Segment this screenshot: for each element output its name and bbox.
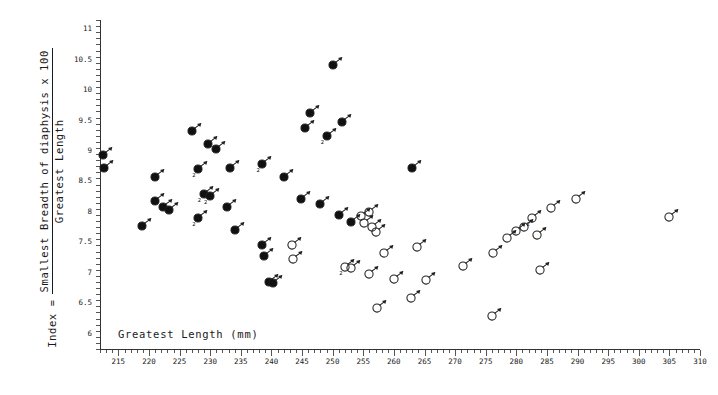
y-axis-minor-tick	[96, 233, 100, 234]
data-point-filled-male	[284, 177, 285, 178]
data-point-open-male	[507, 238, 508, 239]
x-axis-major-tick	[394, 350, 395, 356]
x-axis-tick-label: 270	[442, 358, 468, 366]
filled-circle-female-icon	[148, 164, 168, 184]
x-axis-minor-tick	[510, 350, 511, 353]
data-point-open-female	[377, 308, 378, 309]
x-axis-minor-tick	[229, 350, 230, 353]
open-circle-female-icon	[370, 296, 390, 316]
filled-circle-female-icon	[220, 195, 240, 215]
data-point-filled-female	[264, 256, 265, 257]
y-axis-minor-tick	[96, 197, 100, 198]
x-axis-minor-tick	[247, 350, 248, 353]
open-circle-female-icon	[369, 220, 389, 240]
x-axis-minor-tick	[437, 350, 438, 353]
open-circle-male-icon	[456, 253, 476, 273]
y-axis-minor-tick	[96, 294, 100, 295]
x-axis-minor-tick	[106, 350, 107, 353]
x-axis-minor-tick	[431, 350, 432, 353]
x-axis-minor-tick	[131, 350, 132, 353]
x-axis-minor-tick	[327, 350, 328, 353]
x-axis-minor-tick	[161, 350, 162, 353]
x-axis-minor-tick	[590, 350, 591, 353]
data-point-open-male	[551, 208, 552, 209]
x-axis-minor-tick	[633, 350, 634, 353]
x-axis-minor-tick	[492, 350, 493, 353]
y-axis-minor-tick	[96, 81, 100, 82]
duplicate-count-label: 2	[204, 200, 207, 206]
data-point-open-male	[540, 270, 541, 271]
data-point-filled-female: 2	[198, 218, 199, 219]
x-axis-minor-tick	[125, 350, 126, 353]
x-axis-minor-tick	[320, 350, 321, 353]
open-circle-female-icon	[419, 268, 439, 288]
duplicate-count-label: 2	[257, 169, 260, 175]
x-axis-tick-label: 250	[320, 358, 346, 366]
y-axis-minor-tick	[96, 209, 100, 210]
y-axis-minor-tick	[96, 203, 100, 204]
x-axis-minor-tick	[369, 350, 370, 353]
x-axis-minor-tick	[314, 350, 315, 353]
x-axis-minor-tick	[192, 350, 193, 353]
data-point-filled-female	[104, 168, 105, 169]
x-axis-minor-tick	[222, 350, 223, 353]
y-axis-minor-tick	[96, 252, 100, 253]
data-point-filled-female: 2	[210, 196, 211, 197]
x-axis-minor-tick	[467, 350, 468, 353]
x-axis-minor-tick	[541, 350, 542, 353]
x-axis-minor-tick	[100, 350, 101, 353]
open-circle-female-icon	[286, 246, 306, 266]
data-point-filled-female	[155, 201, 156, 202]
filled-circle-male-icon	[314, 192, 334, 212]
y-axis-minor-tick	[96, 75, 100, 76]
data-point-open-male	[417, 247, 418, 248]
x-axis-minor-tick	[676, 350, 677, 353]
y-axis-minor-tick	[96, 191, 100, 192]
y-axis-minor-tick	[96, 270, 100, 271]
x-axis-minor-tick	[627, 350, 628, 353]
data-point-open-female	[411, 298, 412, 299]
x-axis-major-tick	[363, 350, 364, 356]
x-axis-minor-tick	[259, 350, 260, 353]
data-point-filled-male	[412, 168, 413, 169]
x-axis-tick-label: 215	[105, 358, 131, 366]
open-circle-female-icon	[485, 303, 505, 323]
x-axis-minor-tick	[186, 350, 187, 353]
y-axis-minor-tick	[96, 99, 100, 100]
x-axis-minor-tick	[284, 350, 285, 353]
x-axis-minor-tick	[216, 350, 217, 353]
filled-circle-female-icon	[266, 271, 286, 291]
y-axis-label: Index = Smallest Breadth of diaphysis x …	[32, 33, 72, 363]
x-axis-major-tick	[180, 350, 181, 356]
x-axis-minor-tick	[688, 350, 689, 353]
data-point-filled-female	[227, 207, 228, 208]
x-axis-minor-tick	[235, 350, 236, 353]
x-axis-minor-tick	[443, 350, 444, 353]
data-point-open-female	[369, 274, 370, 275]
x-axis-tick-label: 305	[656, 358, 682, 366]
x-axis-major-tick	[333, 350, 334, 356]
x-axis-major-tick	[118, 350, 119, 356]
y-axis-minor-tick	[96, 51, 100, 52]
x-axis-major-tick	[210, 350, 211, 356]
filled-circle-male-icon	[406, 156, 426, 176]
y-axis-minor-tick	[96, 105, 100, 106]
x-axis-minor-tick	[522, 350, 523, 353]
y-axis-tick-label: 8	[66, 208, 92, 216]
x-axis-minor-tick	[296, 350, 297, 353]
x-axis-major-tick	[149, 350, 150, 356]
open-circle-male-icon	[544, 195, 564, 215]
y-axis-minor-tick	[96, 130, 100, 131]
x-axis-major-tick	[608, 350, 609, 356]
y-axis-minor-tick	[96, 312, 100, 313]
duplicate-count-label: 2	[527, 222, 530, 228]
x-axis-minor-tick	[474, 350, 475, 353]
x-axis-tick-label: 300	[626, 358, 652, 366]
x-axis-minor-tick	[498, 350, 499, 353]
x-axis-tick-label: 225	[167, 358, 193, 366]
x-axis-major-tick	[700, 350, 701, 356]
data-point-open-female	[351, 268, 352, 269]
y-axis-label-prefix: Index =	[46, 299, 58, 347]
y-axis-minor-tick	[96, 178, 100, 179]
x-axis-minor-tick	[339, 350, 340, 353]
